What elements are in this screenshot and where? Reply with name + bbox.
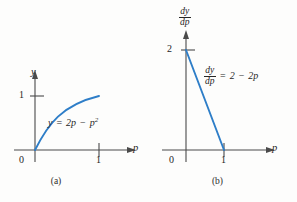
- equation-term1: 2: [230, 70, 235, 81]
- x-tick-label-1: 1: [96, 155, 101, 165]
- equation-label-a: y = 2p − p2: [48, 117, 98, 128]
- equation-term2: 2p: [248, 70, 258, 81]
- panel-a-plot: [0, 0, 148, 202]
- origin-label: 0: [169, 155, 174, 165]
- panel-a-caption: (a): [0, 176, 130, 186]
- equation-operator: −: [237, 70, 246, 81]
- origin-label: 0: [19, 155, 24, 165]
- x-axis-label: p: [272, 143, 277, 154]
- panel-b-caption: (b): [143, 176, 292, 186]
- panel-a: y p 1 0 1 y = 2p − p2 (a): [0, 0, 148, 202]
- x-tick-label-1: 1: [221, 155, 226, 165]
- equation-equals: =: [55, 117, 64, 128]
- y-axis-label: y: [31, 67, 36, 78]
- y-axis-label-denominator: dp: [179, 17, 191, 28]
- panel-b: dy dp p 2 0 1 dy dp = 2 − 2p: [148, 0, 297, 202]
- equation-equals: =: [219, 70, 228, 81]
- y-tick-label-2: 2: [167, 44, 172, 54]
- equation-operator: −: [79, 117, 88, 128]
- equation-denominator: dp: [204, 76, 216, 87]
- equation-term1: 2p: [66, 117, 76, 128]
- y-axis-arrowhead: [183, 30, 189, 39]
- y-axis-label-fraction: dy dp: [179, 7, 191, 28]
- panel-b-plot: [148, 0, 297, 202]
- y-tick-label-1: 1: [19, 90, 24, 100]
- equation-numerator: dy: [204, 66, 216, 76]
- equation-lhs: y: [48, 117, 52, 128]
- two-panel-figure: y p 1 0 1 y = 2p − p2 (a): [0, 0, 297, 202]
- equation-exponent: 2: [95, 116, 99, 124]
- y-axis-label-numerator: dy: [179, 7, 191, 17]
- equation-label-b: dy dp = 2 − 2p: [204, 66, 258, 87]
- x-axis-label: p: [133, 143, 138, 154]
